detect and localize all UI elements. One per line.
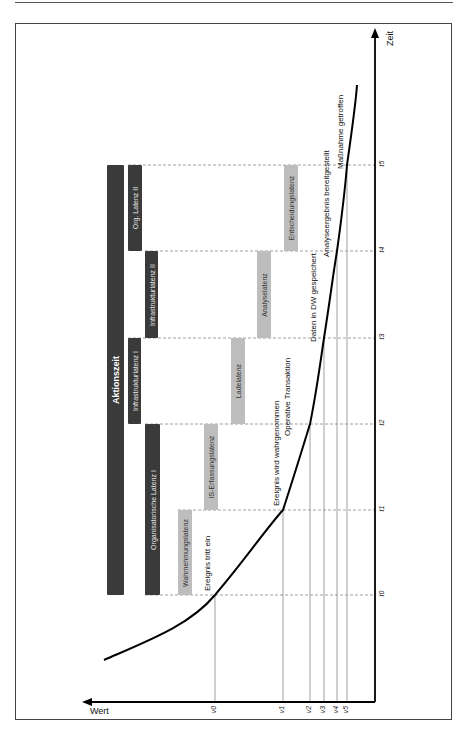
value-tick-v0: v0	[210, 706, 217, 713]
infra-latenz-1-bar: Infrastrukturlatenz I	[128, 338, 141, 424]
event-daten-in-dw: Daten in DW gespeichert	[309, 253, 318, 342]
value-tick-v2: v2	[305, 706, 312, 713]
entscheidungslatenz-bar: Entscheidungslatenz	[284, 165, 298, 251]
org-latenz-1-bar: Organisatorische Latenz I	[145, 424, 160, 595]
event-massnahme-getroffen: Maßnahme getroffen	[336, 95, 345, 169]
event-analyseergebnis: Analyseergebnis bereitgestellt	[322, 150, 331, 257]
is-erfassungslatenz-bar: IS-Erfassungslatenz	[204, 424, 218, 510]
value-axis-label: Wert	[90, 706, 109, 716]
value-tick-v4: v4	[332, 706, 339, 713]
time-tick-t0: t0	[378, 591, 385, 597]
aktionszeit-bar: Aktionszeit	[107, 165, 124, 595]
wahrnehmungslatenz-label: Wahrnehmungslatenz	[182, 519, 189, 587]
entscheidungslatenz-label: Entscheidungslatenz	[288, 176, 295, 241]
wahrnehmungslatenz-bar: Wahrnehmungslatenz	[178, 510, 192, 595]
infra-latenz-2-bar: Infrastrukturlatenz II	[145, 251, 158, 338]
time-tick-t1: t1	[378, 506, 385, 512]
event-operative-transaktion: Operative Transaktion	[283, 358, 292, 436]
analyselatenz-bar: Analyselatenz	[257, 251, 271, 338]
time-tick-t5: t5	[378, 161, 385, 167]
aktionszeit-label: Aktionszeit	[111, 356, 121, 404]
value-axis-arrow-icon	[82, 698, 92, 706]
ladelatenz-label: Ladelatenz	[235, 364, 242, 398]
ladelatenz-bar: Ladelatenz	[231, 338, 245, 424]
time-gridlines	[128, 165, 375, 595]
event-ereignis-tritt-ein: Ereignis tritt ein	[203, 536, 212, 591]
org-latenz-1-label: Organisatorische Latenz I	[149, 470, 156, 550]
org-latenz-2-label: Org. Latenz II	[132, 187, 139, 229]
analyselatenz-label: Analyselatenz	[261, 273, 268, 317]
time-tick-t4: t4	[378, 247, 385, 253]
value-tick-v3: v3	[319, 706, 326, 713]
event-ereignis-wahrgenommen: Ereignis wird wahrgenommen	[272, 401, 281, 506]
time-tick-t3: t3	[378, 334, 385, 340]
time-tick-t2: t2	[378, 420, 385, 426]
time-axis-label: Zeit	[385, 31, 395, 46]
is-erfassungslatenz-label: IS-Erfassungslatenz	[208, 436, 215, 499]
time-axis-arrow-icon	[371, 28, 379, 38]
infra-latenz-1-label: Infrastrukturlatenz I	[131, 351, 138, 411]
value-tick-v1: v1	[278, 706, 285, 713]
infra-latenz-2-label: Infrastrukturlatenz II	[148, 264, 155, 326]
org-latenz-2-bar: Org. Latenz II	[128, 165, 142, 251]
value-tick-v5: v5	[342, 706, 349, 713]
